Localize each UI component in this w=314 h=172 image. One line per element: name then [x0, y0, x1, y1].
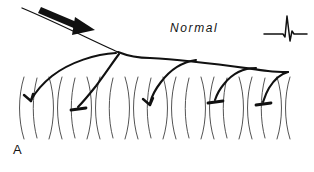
diagram-canvas: [0, 0, 314, 172]
conduction-direction-arrow: [38, 7, 95, 35]
nerve-terminal-1: [24, 94, 33, 101]
purkinje-branch-5: [263, 72, 288, 102]
nerve-terminal-2: [71, 108, 86, 110]
purkinje-branch-3: [150, 60, 196, 103]
myocardial-fiber-band: [20, 77, 291, 139]
ecg-tracing: [264, 16, 307, 41]
figure-panel-a: Normal A: [0, 0, 314, 172]
purkinje-conduction-trunk: [118, 52, 288, 72]
ecg-label-normal: Normal: [170, 22, 218, 34]
nerve-terminal-5: [256, 103, 271, 105]
surface-line: [22, 8, 118, 52]
nerve-terminal-4: [208, 101, 223, 103]
panel-label: A: [13, 143, 22, 156]
